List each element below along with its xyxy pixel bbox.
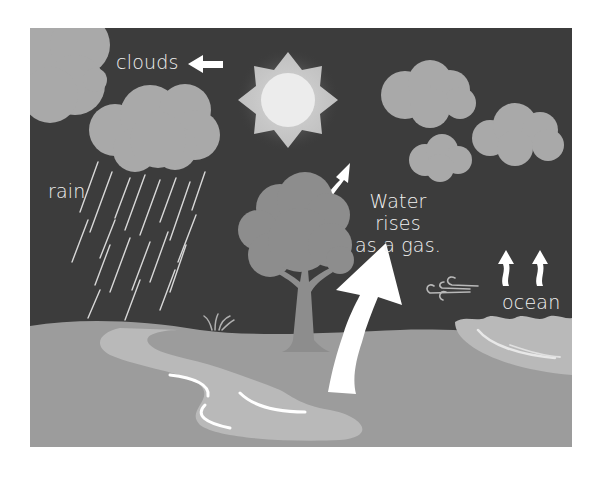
label-ocean: ocean bbox=[502, 291, 560, 313]
label-water-rises: Water rises as a gas. bbox=[350, 190, 446, 256]
cloud-top-left bbox=[10, 15, 110, 123]
label-rain: rain bbox=[48, 180, 86, 202]
label-water-rises-line1: Water rises bbox=[369, 190, 426, 234]
label-clouds: clouds bbox=[116, 51, 179, 73]
sun-icon bbox=[236, 48, 340, 152]
water-cycle-diagram bbox=[0, 0, 602, 495]
label-water-rises-line2: as a gas. bbox=[355, 234, 441, 256]
